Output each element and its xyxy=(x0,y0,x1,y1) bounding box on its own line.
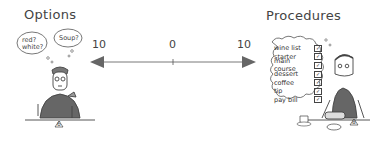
checklist-item: main course✓ xyxy=(274,61,322,70)
checklist-item: dessert✓ xyxy=(274,70,322,79)
checklist-item: wine list✓ xyxy=(274,44,322,53)
checked-box-icon: ✓ xyxy=(314,71,322,78)
bubble-text-soup: Soup? xyxy=(59,34,79,42)
checklist-item: pay bill✓ xyxy=(274,96,322,105)
options-title: Options xyxy=(24,7,76,22)
checked-box-icon: ✓ xyxy=(314,88,322,95)
checklist-item: coffee✓ xyxy=(274,78,322,87)
left-arrowhead xyxy=(90,56,104,68)
checked-box-icon: ✓ xyxy=(314,62,322,69)
checked-box-icon: ✓ xyxy=(314,45,322,52)
procedures-title: Procedures xyxy=(266,8,341,23)
scale-left-label: 10 xyxy=(92,38,106,51)
checked-box-icon: ✓ xyxy=(314,96,322,103)
bill-plate xyxy=(327,124,341,130)
checklist-item: tip✓ xyxy=(274,87,322,96)
right-arrowhead xyxy=(242,56,256,68)
right-table-number: 8 xyxy=(352,118,356,125)
bubble-text-wine: red? white? xyxy=(22,37,44,51)
man-figure xyxy=(25,67,95,120)
scale-center-label: 0 xyxy=(169,38,176,51)
left-table-number: 6 xyxy=(57,120,61,127)
procedure-checklist: wine list✓ starter✓ main course✓ dessert… xyxy=(274,44,322,104)
checked-box-icon: ✓ xyxy=(314,53,322,60)
checked-box-icon: ✓ xyxy=(314,79,322,86)
scale-right-label: 10 xyxy=(237,38,251,51)
